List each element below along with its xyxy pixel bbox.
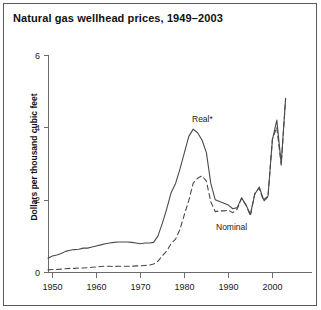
series-label-real: Real* (192, 114, 213, 124)
data-line-nominal (48, 99, 286, 270)
x-tick-group: 195019601970198019902000 (42, 273, 282, 293)
y-tick-label: 0 (35, 268, 40, 278)
x-tick-label: 1960 (86, 282, 106, 292)
y-tick-label: 6 (35, 51, 40, 61)
x-tick-label: 1950 (42, 282, 62, 292)
chart-figure: Natural gas wellhead prices, 1949–2003 D… (0, 0, 321, 310)
x-tick-label: 1970 (130, 282, 150, 292)
x-tick-label: 1980 (174, 282, 194, 292)
y-tick-label: 2 (35, 195, 40, 205)
axes-group (49, 55, 313, 273)
y-tick-label: 4 (35, 123, 40, 133)
y-tick-group: 0246 (35, 51, 49, 278)
series-label-nominal: Nominal (216, 222, 247, 232)
x-tick-label: 1990 (218, 282, 238, 292)
data-line-real (48, 98, 286, 258)
plot-area: 0246 195019601970198019902000 Real* Nomi… (0, 0, 321, 310)
x-tick-label: 2000 (262, 282, 282, 292)
data-series-group (48, 98, 286, 269)
